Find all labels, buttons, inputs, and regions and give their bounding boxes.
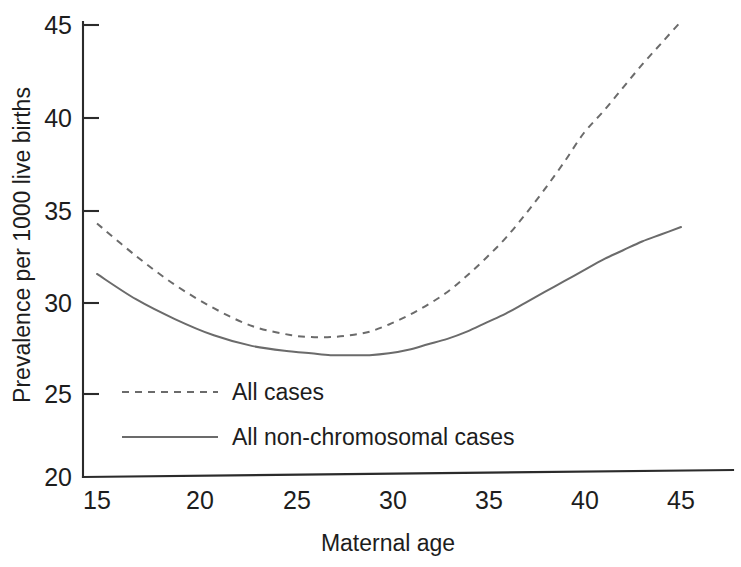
x-tick-label-15: 15: [83, 486, 111, 514]
y-axis-title: Prevalence per 1000 live births: [9, 87, 35, 403]
x-tick-label-30: 30: [379, 486, 407, 514]
x-axis-line: [83, 470, 733, 477]
x-tick-label-20: 20: [186, 486, 214, 514]
chart-legend: All cases All non-chromosomal cases: [122, 379, 515, 450]
legend-label-all-non-chromosomal-cases: All non-chromosomal cases: [232, 424, 515, 450]
y-tick-label-30: 30: [44, 289, 72, 317]
y-axis-tick-labels: 45 40 35 30 25 20: [44, 11, 72, 491]
legend-label-all-cases: All cases: [232, 379, 324, 405]
y-tick-label-45: 45: [44, 11, 72, 39]
x-tick-label-40: 40: [571, 486, 599, 514]
x-tick-label-25: 25: [283, 486, 311, 514]
x-axis-title: Maternal age: [321, 530, 455, 556]
y-tick-label-25: 25: [44, 380, 72, 408]
series-line-all-cases: [97, 21, 681, 337]
x-tick-label-45: 45: [667, 486, 695, 514]
y-tick-label-35: 35: [44, 197, 72, 225]
x-tick-label-35: 35: [475, 486, 503, 514]
x-axis-tick-labels: 15 20 25 30 35 40 45: [83, 486, 695, 514]
y-tick-label-40: 40: [44, 104, 72, 132]
y-axis-ticks: [83, 25, 99, 394]
chart-figure: 45 40 35 30 25 20 15 20 25 30 35 40 45 M…: [0, 0, 741, 567]
line-chart-canvas: 45 40 35 30 25 20 15 20 25 30 35 40 45 M…: [0, 0, 741, 567]
y-tick-label-20: 20: [44, 463, 72, 491]
